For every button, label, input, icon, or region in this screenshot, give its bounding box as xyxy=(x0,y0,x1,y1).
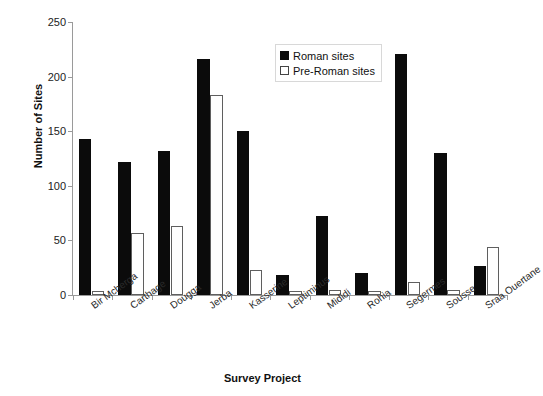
legend-swatch-preroman-icon xyxy=(280,66,289,75)
chart-legend: Roman sites Pre-Roman sites xyxy=(275,44,382,82)
legend-label-roman: Roman sites xyxy=(293,50,354,62)
bar-group xyxy=(231,22,270,295)
bar-roman xyxy=(237,131,250,295)
legend-swatch-roman-icon xyxy=(280,51,289,60)
bar-roman xyxy=(395,54,408,295)
y-tick-label: 100 xyxy=(48,180,66,192)
x-axis-title: Survey Project xyxy=(0,372,525,384)
bar-group xyxy=(191,22,230,295)
bar-roman xyxy=(355,273,368,295)
bar-roman xyxy=(197,59,210,295)
bar-preroman xyxy=(131,233,144,295)
bar-preroman xyxy=(171,226,184,295)
y-tick-label: 150 xyxy=(48,125,66,137)
bar-roman xyxy=(158,151,171,295)
legend-item-roman: Roman sites xyxy=(280,48,375,63)
y-tick-label: 0 xyxy=(60,289,66,301)
legend-label-preroman: Pre-Roman sites xyxy=(293,65,375,77)
legend-item-preroman: Pre-Roman sites xyxy=(280,63,375,78)
bar-group xyxy=(428,22,467,295)
x-axis-category-labels: Bir MchergaCarthageDouggaJerbaKasserineL… xyxy=(72,300,506,370)
bar-group xyxy=(468,22,507,295)
bar-group xyxy=(112,22,151,295)
bar-roman xyxy=(434,153,447,295)
y-tick-label: 50 xyxy=(54,234,66,246)
bar-preroman xyxy=(210,95,223,295)
bar-group xyxy=(152,22,191,295)
bar-group xyxy=(389,22,428,295)
bar-preroman xyxy=(487,247,500,295)
y-tick-label: 200 xyxy=(48,71,66,83)
bar-group xyxy=(73,22,112,295)
y-axis-title: Number of Sites xyxy=(32,46,44,206)
y-tick-label: 250 xyxy=(48,16,66,28)
bar-roman xyxy=(79,139,92,295)
